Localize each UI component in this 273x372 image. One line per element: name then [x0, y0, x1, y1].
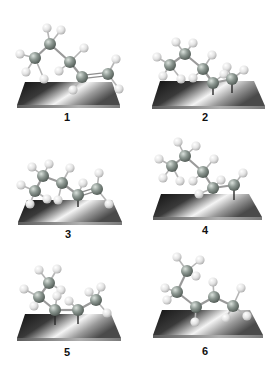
hydrogen-atom [42, 194, 51, 203]
panel-label: 2 [202, 111, 208, 123]
hydrogen-atom [160, 283, 169, 292]
hydrogen-atom [19, 284, 28, 293]
hydrogen-atom [102, 308, 111, 317]
hydrogen-atom [239, 65, 248, 74]
carbon-atom [102, 68, 114, 80]
carbon-atom [29, 185, 41, 197]
panel-label: 3 [65, 228, 71, 240]
hydrogen-atom [34, 265, 43, 274]
hydrogen-atom [42, 23, 51, 32]
panels-container: 123456 [15, 23, 265, 358]
surface-slab [153, 194, 262, 220]
hydrogen-atom [53, 195, 62, 204]
hydrogen-atom [16, 180, 25, 189]
carbon-atom [33, 291, 45, 303]
carbon-atom [208, 291, 220, 303]
hydrogen-atom [65, 163, 74, 172]
panel-6: 6 [153, 252, 263, 357]
carbon-atom [179, 150, 191, 162]
panel-label: 4 [202, 224, 209, 236]
carbon-atom [227, 300, 239, 312]
carbon-atom [37, 170, 49, 182]
carbon-atom [207, 77, 219, 89]
hydrogen-atom [96, 282, 105, 291]
hydrogen-atom [52, 291, 61, 300]
hydrogen-atom [64, 296, 73, 305]
hydrogen-atom [39, 74, 48, 83]
hydrogen-atom [56, 25, 65, 34]
hydrogen-atom [78, 178, 87, 187]
hydrogen-atom [68, 85, 77, 94]
carbon-atom [166, 160, 178, 172]
hydrogen-atom [221, 313, 230, 322]
hydrogen-atom [236, 283, 245, 292]
hydrogen-atom [158, 173, 167, 182]
panel-label: 6 [202, 345, 208, 357]
hydrogen-atom [209, 154, 218, 163]
hydrogen-atom [190, 317, 199, 326]
surface-slab [17, 314, 121, 341]
surface-slab [17, 82, 120, 108]
hydrogen-atom [29, 301, 38, 310]
hydrogen-atom [188, 38, 197, 47]
hydrogen-atom [242, 311, 251, 320]
hydrogen-atom [158, 71, 167, 80]
hydrogen-atom [52, 264, 61, 273]
carbon-atom [56, 177, 68, 189]
hydrogen-atom [111, 54, 120, 63]
hydrogen-atom [54, 66, 63, 75]
panel-3: 3 [16, 159, 122, 240]
hydrogen-atom [172, 252, 181, 261]
hydrogen-atom [194, 189, 203, 198]
carbon-atom [226, 73, 238, 85]
carbon-atom [44, 38, 56, 50]
hydrogen-atom [188, 73, 197, 82]
hydrogen-atom [208, 277, 217, 286]
panel-2: 2 [152, 37, 265, 123]
hydrogen-atom [195, 255, 204, 264]
panel-1: 1 [15, 23, 123, 123]
hydrogen-atom [114, 84, 123, 93]
hydrogen-atom [188, 176, 197, 185]
hydrogen-atom [191, 271, 200, 280]
carbon-atom [207, 182, 219, 194]
hydrogen-atom [152, 52, 161, 61]
carbon-atom [76, 71, 88, 83]
hydrogen-atom [176, 74, 185, 83]
hydrogen-atom [94, 168, 103, 177]
hydrogen-atom [154, 154, 163, 163]
hydrogen-atom [21, 67, 30, 76]
hydrogen-atom [104, 199, 113, 208]
carbon-atom [43, 277, 55, 289]
hydrogen-atom [15, 49, 24, 58]
hydrogen-atom [27, 162, 36, 171]
carbon-atom [91, 183, 103, 195]
carbon-atom [72, 189, 84, 201]
hydrogen-atom [175, 176, 184, 185]
panel-label: 5 [64, 346, 70, 358]
panel-4: 4 [153, 137, 262, 236]
adsorbed-molecule-figure: 123456 [0, 0, 273, 372]
hydrogen-atom [191, 141, 200, 150]
hydrogen-atom [238, 168, 247, 177]
carbon-atom [197, 63, 209, 75]
hydrogen-atom [79, 43, 88, 52]
panel-label: 1 [64, 111, 70, 123]
carbon-atom [49, 304, 61, 316]
carbon-atom [181, 265, 193, 277]
hydrogen-atom [216, 175, 225, 184]
hydrogen-atom [25, 199, 34, 208]
hydrogen-atom [44, 159, 53, 168]
carbon-atom [190, 301, 202, 313]
carbon-atom [90, 294, 102, 306]
carbon-atom [164, 59, 176, 71]
carbon-atom [29, 52, 41, 64]
panel-5: 5 [17, 264, 121, 358]
hydrogen-atom [162, 295, 171, 304]
hydrogen-atom [207, 50, 216, 59]
pentene-molecule [154, 137, 247, 198]
carbon-atom [64, 56, 76, 68]
hydrogen-atom [84, 287, 93, 296]
carbon-atom [171, 286, 183, 298]
hydrogen-atom [173, 137, 182, 146]
